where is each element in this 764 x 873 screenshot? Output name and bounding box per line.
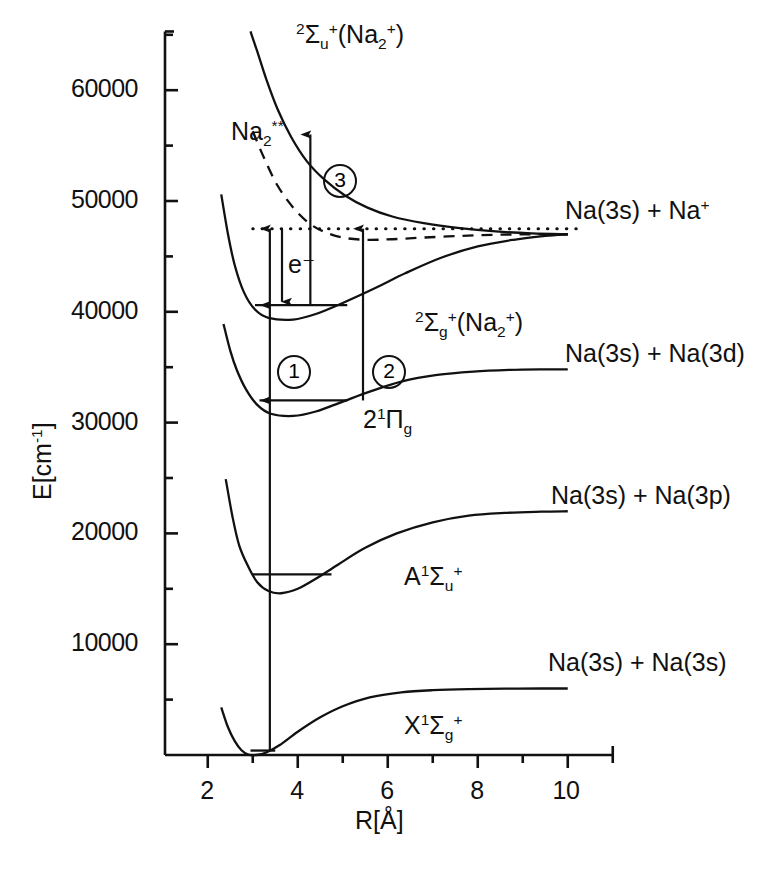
potential-curve [221,194,568,319]
x-tick-label: 10 [553,776,580,805]
state-label-na2-double-star: Na2** [231,117,284,150]
x-tick-label: 2 [200,776,213,805]
potential-curve [226,479,568,593]
y-tick-label: 50000 [71,185,138,214]
state-label-2-1-pi-g: 21Πg [363,405,412,438]
asymptote-label-na3s-plus-na3d: Na(3s) + Na(3d) [565,339,745,368]
asymptote-label-na3s-plus-na-plus: Na(3s) + Na+ [565,196,710,225]
transition-step-1-badge: 1 [277,355,311,389]
y-tick-label: 30000 [71,407,138,436]
x-tick-label: 8 [470,776,483,805]
y-tick-label: 60000 [71,74,138,103]
x-tick-label: 6 [380,776,393,805]
transition-step-2-badge: 2 [372,355,406,389]
y-tick-label: 40000 [71,296,138,325]
transition-step-3-badge: 3 [323,164,357,198]
x-tick-label: 4 [290,776,303,805]
electron-label: e⁻ [288,250,315,279]
state-label-2sigma-g-plus-na2-plus: 2Σg+(Na2+) [415,308,523,341]
y-tick-label: 20000 [71,517,138,546]
potential-curve [251,31,568,234]
y-axis-title: E[cm-1] [28,422,57,500]
x-axis-title: R[Å] [355,806,404,835]
state-label-2sigma-u-plus-na2-plus: 2Σu+(Na2+) [296,20,404,53]
state-label-a-1-sigma-u-plus: A1Σu+ [404,562,462,595]
potential-curve [221,689,568,756]
asymptote-label-na3s-plus-na3p: Na(3s) + Na(3p) [551,481,731,510]
potential-energy-curve-figure: 10000 20000 30000 40000 50000 60000 2 4 … [0,0,764,873]
potential-curve [253,131,568,240]
asymptote-label-na3s-plus-na3s: Na(3s) + Na(3s) [548,648,727,677]
y-tick-label: 10000 [71,628,138,657]
state-label-x-1-sigma-g-plus: X1Σg+ [404,711,462,744]
